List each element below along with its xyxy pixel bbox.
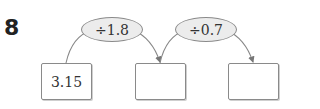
operation-divide-0-7: ÷0.7 [175, 17, 237, 42]
answer-box-1[interactable] [135, 63, 186, 100]
value-box-start: 3.15 [41, 63, 92, 100]
answer-box-2[interactable] [228, 63, 279, 100]
operation-divide-1-8: ÷1.8 [81, 17, 143, 42]
